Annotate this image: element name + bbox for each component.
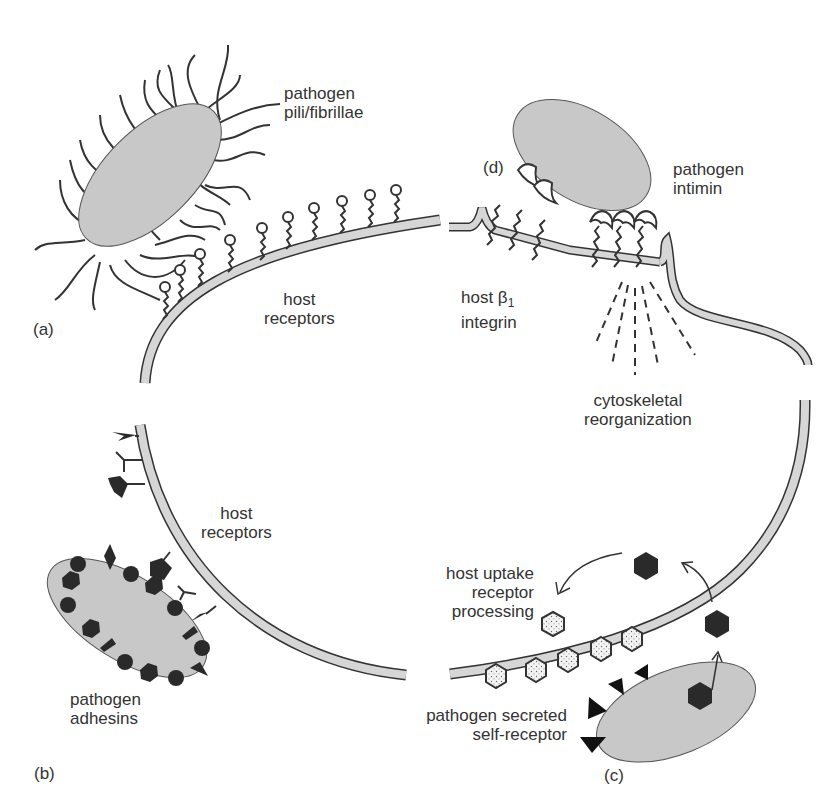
pathogen-d-body: [494, 77, 671, 234]
label-line: host uptake: [432, 564, 534, 583]
host-uptake-receptors: [486, 612, 642, 688]
label-host-integrin: host β1 integrin: [461, 288, 517, 332]
label-line: receptor: [432, 583, 534, 602]
label-pathogen-intimin: pathogen intimin: [673, 160, 744, 198]
secreted-receptor-hexagon: [705, 610, 729, 638]
label-pathogen-adhesins: pathogen adhesins: [70, 690, 141, 728]
integrin-subscript: 1: [508, 296, 515, 310]
diagram-graphics: [0, 0, 829, 802]
label-line: host: [201, 504, 272, 523]
label-pathogen-secreted: pathogen secreted self-receptor: [405, 706, 567, 744]
host-pathogen-adhesion-diagram: pathogen pili/fibrillae host receptors (…: [0, 0, 829, 802]
label-host-receptors-b: host receptors: [201, 504, 272, 542]
label-line: receptors: [201, 523, 272, 542]
label-line: intimin: [673, 179, 744, 198]
panel-tag-b: (b): [34, 764, 55, 783]
label-host-uptake: host uptake receptor processing: [432, 564, 534, 621]
released-receptor-hexagon: [634, 552, 658, 580]
integrin-text: host β: [461, 288, 508, 307]
label-line: receptors: [264, 309, 335, 328]
label-line: adhesins: [70, 709, 141, 728]
label-line: reorganization: [584, 410, 692, 429]
panel-tag-d: (d): [483, 158, 504, 177]
label-pathogen-pili: pathogen pili/fibrillae: [284, 84, 363, 122]
label-line: self-receptor: [405, 725, 567, 744]
label-host-receptors-a: host receptors: [264, 290, 335, 328]
panel-tag-c: (c): [604, 766, 624, 785]
label-line: pathogen secreted: [405, 706, 567, 725]
label-line: pathogen: [70, 690, 141, 709]
label-line: processing: [432, 602, 534, 621]
panel-tag-a: (a): [33, 320, 54, 339]
label-line: pathogen: [673, 160, 744, 179]
label-cytoskeletal: cytoskeletal reorganization: [584, 391, 692, 429]
label-line: host: [264, 290, 335, 309]
label-line: integrin: [461, 313, 517, 332]
label-line: pathogen: [284, 84, 363, 103]
label-line: host β1: [461, 288, 517, 313]
pathogen-c-body: [582, 642, 769, 783]
label-line: pili/fibrillae: [284, 103, 363, 122]
label-line: cytoskeletal: [584, 391, 692, 410]
